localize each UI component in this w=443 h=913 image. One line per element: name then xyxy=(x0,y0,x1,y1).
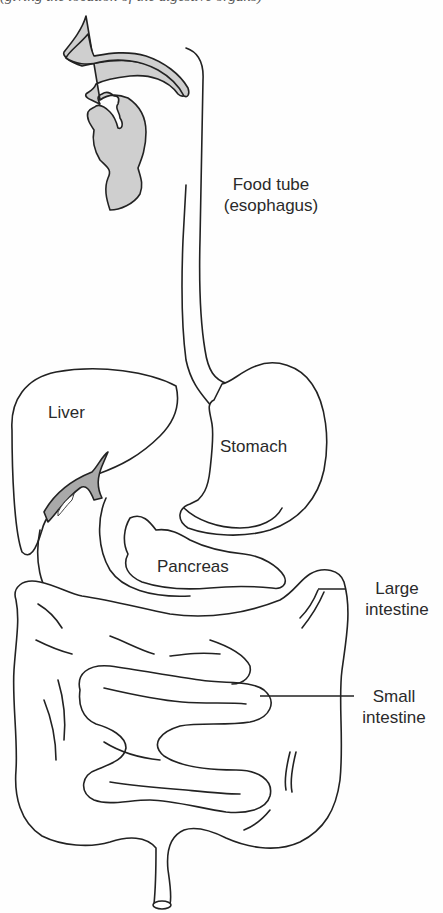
liver-label: Liver xyxy=(48,402,85,423)
large-intestine-label: Large intestine xyxy=(358,578,436,620)
stomach-label: Stomach xyxy=(220,436,287,457)
small-intestine-label: Small intestine xyxy=(354,686,434,728)
head-mouth-region xyxy=(64,16,189,210)
small-intestine-label-line2: intestine xyxy=(354,707,434,728)
large-intestine-label-line1: Large xyxy=(358,578,436,599)
esophagus xyxy=(182,48,228,410)
esophagus-label: Food tube (esophagus) xyxy=(210,174,332,216)
small-intestine-label-line1: Small xyxy=(354,686,434,707)
pancreas-label: Pancreas xyxy=(157,556,229,577)
esophagus-label-line2: (esophagus) xyxy=(210,195,332,216)
large-intestine-label-line2: intestine xyxy=(358,599,436,620)
large-intestine xyxy=(14,570,348,909)
esophagus-label-line1: Food tube xyxy=(210,174,332,195)
